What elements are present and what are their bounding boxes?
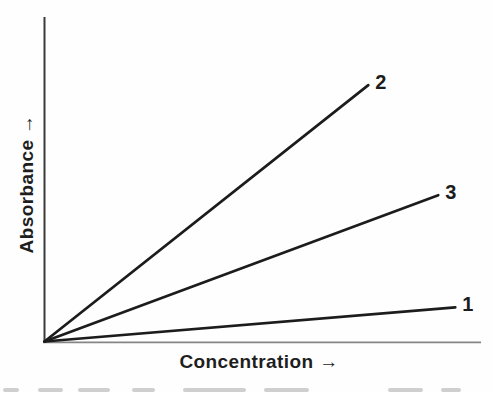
line-label-1: 1	[462, 293, 473, 315]
calibration-line-1	[45, 307, 456, 341]
calibration-line-3	[45, 195, 439, 341]
series-lines-group	[45, 85, 456, 341]
calibration-curves-figure: 231 Absorbance → Concentration →	[0, 0, 492, 393]
scan-smudge	[78, 388, 110, 392]
scan-smudge	[183, 388, 246, 392]
scan-smudge	[38, 388, 63, 392]
line-label-3: 3	[445, 181, 456, 203]
x-axis-label: Concentration →	[149, 351, 369, 373]
scan-smudge	[264, 388, 309, 392]
calibration-line-2	[45, 85, 369, 341]
series-labels-group: 231	[375, 71, 473, 315]
scan-smudge	[441, 388, 461, 392]
line-label-2: 2	[375, 71, 386, 93]
y-axis-label: Absorbance →	[16, 84, 38, 284]
scan-smudge	[3, 388, 19, 392]
chart-canvas: 231	[0, 0, 492, 393]
scan-smudge	[132, 388, 155, 392]
scan-smudge	[388, 388, 423, 392]
